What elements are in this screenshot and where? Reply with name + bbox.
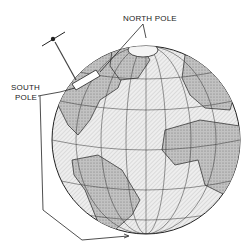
north-pole-cap — [128, 43, 158, 57]
south-pole-label-line2: POLE — [15, 93, 37, 103]
satellite — [42, 32, 100, 90]
diagram-canvas: NORTH POLE SOUTH POLE — [0, 0, 251, 251]
north-pole-label: NORTH POLE — [123, 14, 177, 24]
globe-diagram — [0, 0, 251, 251]
globe — [52, 43, 244, 236]
south-pole-label-line1: SOUTH — [11, 83, 40, 93]
